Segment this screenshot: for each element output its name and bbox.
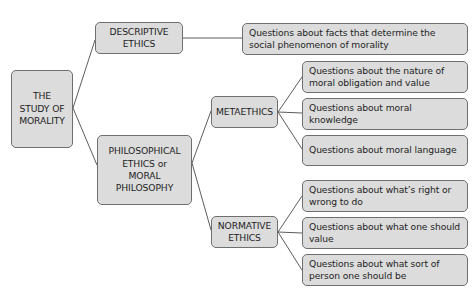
node-descriptive-question: Questions about facts that determine the… bbox=[242, 23, 468, 55]
node-label: THE STUDY OF MORALITY bbox=[11, 90, 73, 127]
node-norm-question-right-wrong: Questions about what’s right or wrong to… bbox=[302, 180, 468, 212]
node-metaethics: METAETHICS bbox=[211, 96, 278, 128]
connector-meta-q1 bbox=[278, 77, 302, 112]
node-study-of-morality: THE STUDY OF MORALITY bbox=[11, 70, 73, 148]
connector-norm-q1 bbox=[278, 196, 302, 232]
question-text: Questions about moral language bbox=[309, 144, 456, 156]
connector-meta-q2 bbox=[278, 112, 302, 113]
node-label: METAETHICS bbox=[216, 106, 273, 118]
question-text: Questions about the nature of moral obli… bbox=[309, 65, 463, 90]
node-norm-question-value: Questions about what one should value bbox=[302, 217, 468, 249]
connector-root-philosophical bbox=[73, 108, 97, 165]
connector-philosophical-normative bbox=[192, 163, 211, 230]
diagram-canvas: THE STUDY OF MORALITY DESCRIPTIVE ETHICS… bbox=[0, 0, 475, 288]
node-meta-question-nature: Questions about the nature of moral obli… bbox=[302, 61, 468, 93]
connector-norm-q2 bbox=[278, 232, 302, 233]
question-text: Questions about what sort of person one … bbox=[309, 258, 463, 283]
connector-meta-q3 bbox=[278, 112, 302, 149]
node-philosophical-ethics: PHILOSOPHICAL ETHICS or MORAL PHILOSOPHY bbox=[97, 135, 192, 205]
question-text: Questions about facts that determine the… bbox=[249, 27, 463, 52]
node-meta-question-language: Questions about moral language bbox=[302, 135, 468, 166]
connector-root-descriptive bbox=[73, 40, 95, 108]
node-meta-question-knowledge: Questions about moral knowledge bbox=[302, 98, 468, 130]
node-descriptive-ethics: DESCRIPTIVE ETHICS bbox=[95, 22, 183, 54]
connector-philosophical-metaethics bbox=[192, 111, 211, 163]
node-label: NORMATIVE ETHICS bbox=[212, 220, 277, 245]
question-text: Questions about what’s right or wrong to… bbox=[309, 184, 463, 209]
question-text: Questions about moral knowledge bbox=[309, 102, 463, 127]
node-norm-question-person: Questions about what sort of person one … bbox=[302, 254, 468, 286]
node-label: PHILOSOPHICAL ETHICS or MORAL PHILOSOPHY bbox=[97, 145, 193, 195]
connector-norm-q3 bbox=[278, 232, 302, 270]
node-label: DESCRIPTIVE ETHICS bbox=[96, 26, 182, 51]
node-normative-ethics: NORMATIVE ETHICS bbox=[211, 216, 278, 248]
question-text: Questions about what one should value bbox=[309, 221, 463, 246]
